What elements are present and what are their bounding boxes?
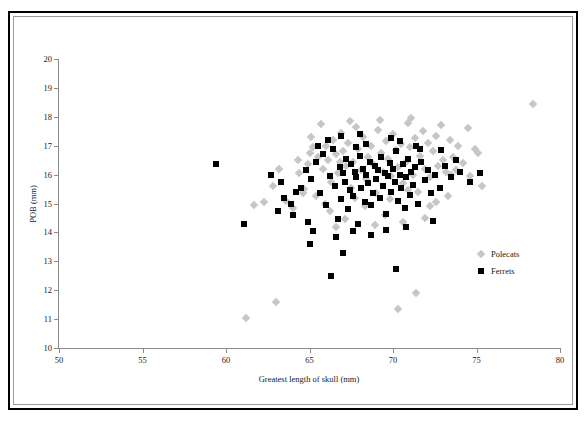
data-point-polecat [419,127,427,135]
data-point-polecat [446,136,454,144]
data-point-ferret [393,148,399,154]
x-axis-tick-label: 50 [55,355,64,365]
data-point-ferret [323,202,329,208]
data-point-polecat [260,198,268,206]
x-axis-tick-label: 55 [138,355,147,365]
data-point-polecat [352,123,360,131]
y-axis-tick [54,261,59,262]
data-point-ferret [385,173,391,179]
chart-page: 101112131415161718192050556065707580 Gre… [0,0,586,425]
data-point-ferret [340,170,346,176]
x-axis-tick [226,348,227,353]
data-point-ferret [327,173,333,179]
data-point-ferret [357,131,363,137]
data-point-polecat [412,289,420,297]
data-point-ferret [397,138,403,144]
data-point-polecat [275,165,283,173]
data-point-polecat [370,221,378,229]
data-point-ferret [403,174,409,180]
data-point-ferret [400,161,406,167]
data-point-ferret [325,137,331,143]
data-point-polecat [385,195,393,203]
data-point-ferret [307,241,313,247]
data-point-ferret [397,172,403,178]
data-point-ferret [335,216,341,222]
data-point-polecat [307,133,315,141]
data-point-ferret [388,135,394,141]
data-point-ferret [362,199,368,205]
data-point-polecat [410,134,418,142]
data-point-polecat [454,141,462,149]
data-point-ferret [348,161,354,167]
legend-item-polecats: Polecats [478,245,519,262]
data-point-ferret [332,183,338,189]
data-point-polecat [432,131,440,139]
data-point-ferret [398,185,404,191]
data-point-ferret [278,179,284,185]
data-point-ferret [353,174,359,180]
x-axis-tick-label: 75 [472,355,481,365]
data-point-ferret [357,153,363,159]
data-point-polecat [340,215,348,223]
data-point-ferret [378,154,384,160]
data-point-polecat [394,305,402,313]
data-point-polecat [345,117,353,125]
data-point-ferret [281,195,287,201]
data-point-ferret [342,179,348,185]
y-axis-tick [54,204,59,205]
data-point-polecat [414,188,422,196]
data-point-ferret [377,195,383,201]
data-point-ferret [355,221,361,227]
chart-legend: Polecats Ferrets [478,245,519,279]
y-axis-tick [54,59,59,60]
data-point-ferret [392,179,398,185]
data-point-ferret [448,174,454,180]
data-point-ferret [275,208,281,214]
data-point-ferret [477,170,483,176]
data-point-ferret [453,157,459,163]
data-point-ferret [415,201,421,207]
data-point-polecat [332,222,340,230]
data-point-ferret [432,172,438,178]
data-point-ferret [290,212,296,218]
y-axis-tick [54,175,59,176]
legend-label-ferrets: Ferrets [491,266,515,276]
data-point-ferret [418,159,424,165]
data-point-ferret [340,250,346,256]
y-axis-tick-label: 19 [44,83,53,93]
data-point-polecat [374,126,382,134]
data-point-polecat [344,139,352,147]
data-point-ferret [363,141,369,147]
data-point-polecat [339,147,347,155]
x-axis-tick [59,348,60,353]
y-axis-tick [54,117,59,118]
data-point-ferret [315,143,321,149]
data-point-ferret [467,179,473,185]
y-axis-tick [54,319,59,320]
data-point-ferret [425,167,431,173]
data-point-ferret [370,190,376,196]
data-point-ferret [317,190,323,196]
y-axis-tick-label: 12 [44,285,53,295]
y-axis-tick-label: 18 [44,112,53,122]
data-point-polecat [464,124,472,132]
data-point-ferret [313,159,319,165]
data-point-ferret [358,185,364,191]
y-axis-tick-label: 15 [44,199,53,209]
data-point-ferret [293,189,299,195]
y-axis-tick-label: 14 [44,227,53,237]
y-axis-tick-label: 20 [44,54,53,64]
data-point-polecat [242,313,250,321]
legend-label-polecats: Polecats [491,249,519,259]
data-point-polecat [272,298,280,306]
data-point-ferret [413,143,419,149]
data-point-ferret [388,189,394,195]
data-point-ferret [422,177,428,183]
data-point-ferret [428,190,434,196]
data-point-polecat [250,201,258,209]
data-point-ferret [363,172,369,178]
data-point-ferret [338,196,344,202]
data-point-ferret [338,133,344,139]
data-point-ferret [383,227,389,233]
legend-item-ferrets: Ferrets [478,262,519,279]
